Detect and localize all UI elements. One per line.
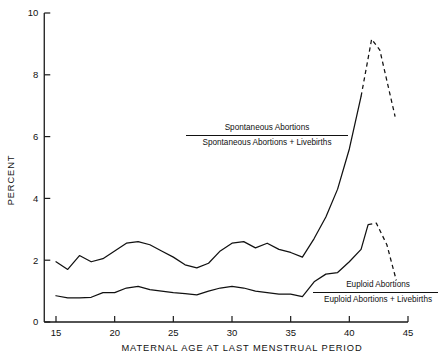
chart-container: 0246810 15202530354045 Spontaneous Abort… xyxy=(0,0,438,359)
legend-upper-denominator: Spontaneous Abortions + Livebirths xyxy=(202,138,331,147)
x-tick-label: 30 xyxy=(227,327,238,338)
y-tick-label: 4 xyxy=(33,193,38,204)
y-axis-ticks: 0246810 xyxy=(28,7,51,327)
y-tick-label: 8 xyxy=(33,69,38,80)
legend-lower-denominator: Euploid Abortions + Livebirths xyxy=(324,295,432,304)
x-tick-label: 35 xyxy=(285,327,296,338)
series-0-dashed-segment xyxy=(361,39,395,116)
legend-upper-numerator: Spontaneous Abortions xyxy=(225,123,310,132)
series-1-dashed-segment xyxy=(368,223,396,280)
x-tick-label: 20 xyxy=(109,327,120,338)
y-tick-label: 0 xyxy=(33,316,38,327)
x-tick-label: 45 xyxy=(403,327,414,338)
x-axis-ticks: 15202530354045 xyxy=(51,316,414,338)
y-axis-title: PERCENT xyxy=(6,155,16,206)
x-axis-title: MATERNAL AGE AT LAST MENSTRUAL PERIOD xyxy=(121,343,362,353)
series-spontaneous-abortions xyxy=(56,39,395,269)
legend-euploid: Euploid Abortions Euploid Abortions + Li… xyxy=(313,280,438,304)
legend-lower-numerator: Euploid Abortions xyxy=(346,280,410,289)
series-0-solid-segment xyxy=(56,96,361,269)
x-tick-label: 25 xyxy=(168,327,179,338)
x-tick-label: 40 xyxy=(344,327,355,338)
y-tick-label: 2 xyxy=(33,255,38,266)
y-tick-label: 6 xyxy=(33,131,38,142)
line-chart: 0246810 15202530354045 Spontaneous Abort… xyxy=(0,0,438,359)
series-1-solid-segment xyxy=(56,225,368,298)
y-tick-label: 10 xyxy=(28,7,39,18)
x-tick-label: 15 xyxy=(51,327,62,338)
legend-spontaneous: Spontaneous Abortions Spontaneous Aborti… xyxy=(186,123,348,147)
